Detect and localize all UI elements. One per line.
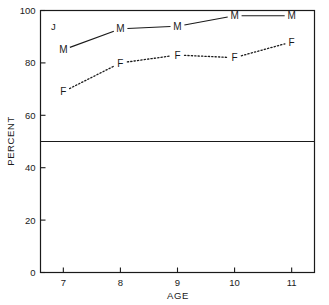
chart-svg: 020406080100 7891011 MMMMMFFFFF PERCENT … [0,0,329,305]
y-tick-label: 40 [25,162,36,173]
x-tick-label: 9 [175,277,180,288]
data-point-label-M: M [59,44,67,55]
panel-label: J [51,21,56,32]
data-point-label-M: M [287,10,295,21]
data-point-label-F: F [117,58,123,69]
x-axis-title: AGE [167,290,189,301]
chart-figure: 020406080100 7891011 MMMMMFFFFF PERCENT … [0,0,329,305]
data-point-label-F: F [232,52,238,63]
y-tick-label: 80 [25,57,36,68]
y-tick-label: 0 [30,267,35,278]
figure-background [0,0,329,305]
data-point-label-M: M [230,10,238,21]
x-tick-label: 7 [61,277,66,288]
y-tick-label: 100 [20,5,36,16]
data-point-label-F: F [174,50,180,61]
data-point-label-M: M [173,21,181,32]
data-point-label-F: F [289,37,295,48]
data-point-label-F: F [60,86,66,97]
data-point-label-M: M [116,23,124,34]
y-axis-title: PERCENT [5,116,16,166]
x-tick-label: 11 [287,277,297,288]
x-tick-label: 8 [118,277,123,288]
y-tick-label: 20 [25,215,36,226]
y-tick-label: 60 [25,110,36,121]
x-tick-label: 10 [229,277,240,288]
